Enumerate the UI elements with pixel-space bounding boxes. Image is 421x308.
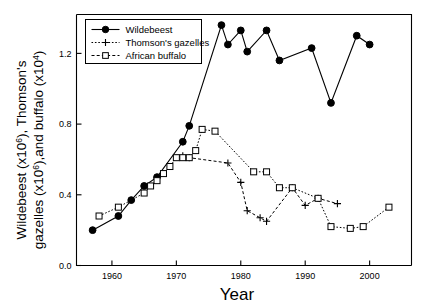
marker-open-square bbox=[160, 171, 166, 177]
marker-open-square bbox=[264, 169, 270, 175]
marker-open-square bbox=[154, 178, 160, 184]
marker-filled-circle bbox=[263, 27, 270, 34]
marker-open-square bbox=[199, 126, 205, 132]
marker-open-square bbox=[289, 185, 295, 191]
y-tick-label: 0.8 bbox=[59, 119, 72, 129]
legend-label: African buffalo bbox=[126, 50, 187, 61]
y-tick-label: 0.0 bbox=[59, 261, 72, 271]
x-tick-label: 1980 bbox=[231, 271, 251, 281]
marker-filled-circle bbox=[244, 48, 251, 55]
marker-filled-circle bbox=[224, 41, 231, 48]
figure-container: 196019701980199020000.00.40.81.2 Wildebe… bbox=[0, 0, 421, 308]
marker-filled-circle bbox=[186, 122, 193, 129]
marker-open-square bbox=[148, 183, 154, 189]
marker-open-square bbox=[212, 128, 218, 134]
marker-filled-circle bbox=[115, 213, 122, 220]
x-tick-label: 1990 bbox=[295, 271, 315, 281]
marker-open-square bbox=[347, 225, 353, 231]
svg-text:gazelles (x106),and buffalo (x: gazelles (x106),and buffalo (x104) bbox=[31, 51, 46, 249]
marker-open-square bbox=[193, 148, 199, 154]
marker-open-square bbox=[141, 190, 147, 196]
y-axis-title-line2-part-a: gazelles (x10 bbox=[31, 170, 46, 250]
line-chart: 196019701980199020000.00.40.81.2 Wildebe… bbox=[0, 0, 421, 308]
marker-filled-circle bbox=[218, 22, 225, 29]
marker-filled-circle bbox=[328, 99, 335, 106]
y-tick-label: 1.2 bbox=[59, 49, 72, 59]
marker-filled-circle bbox=[366, 41, 373, 48]
marker-filled-circle bbox=[179, 138, 186, 145]
x-tick-label: 1960 bbox=[102, 271, 122, 281]
x-tick-label: 2000 bbox=[360, 271, 380, 281]
x-tick-label: 1970 bbox=[166, 271, 186, 281]
x-axis-title: Year bbox=[220, 285, 255, 304]
marker-open-square bbox=[186, 155, 192, 161]
marker-open-square bbox=[315, 195, 321, 201]
y-tick-label: 0.4 bbox=[59, 190, 72, 200]
marker-open-square bbox=[386, 204, 392, 210]
marker-filled-circle bbox=[89, 227, 96, 234]
y-axis-title-line2-part-b: ),and buffalo (x10 bbox=[31, 60, 46, 165]
chart-legend[interactable]: WildebeestThomson's gazellesAfrican buff… bbox=[86, 20, 210, 64]
marker-filled-circle bbox=[237, 27, 244, 34]
legend-label: Thomson's gazelles bbox=[126, 37, 210, 48]
marker-filled-circle bbox=[128, 197, 135, 204]
marker-filled-circle bbox=[353, 32, 360, 39]
marker-filled-circle bbox=[141, 183, 148, 190]
marker-open-square bbox=[328, 224, 334, 230]
marker-open-square bbox=[115, 204, 121, 210]
y-axis-title-line1-part-a: Wildebeest (x10 bbox=[14, 143, 29, 240]
marker-open-square bbox=[103, 53, 109, 59]
y-axis-title-line1-part-b: ), Thomson's bbox=[14, 60, 29, 138]
marker-open-square bbox=[251, 169, 257, 175]
y-axis-title-line2-part-c: ) bbox=[31, 51, 46, 56]
marker-filled-circle bbox=[276, 57, 283, 64]
marker-open-square bbox=[167, 164, 173, 170]
marker-filled-circle bbox=[102, 26, 108, 32]
marker-open-square bbox=[96, 213, 102, 219]
marker-open-square bbox=[360, 224, 366, 230]
legend-label: Wildebeest bbox=[126, 24, 173, 35]
marker-filled-circle bbox=[308, 45, 315, 52]
svg-text:Wildebeest (x106), Thomson's: Wildebeest (x106), Thomson's bbox=[14, 60, 29, 239]
marker-open-square bbox=[173, 155, 179, 161]
marker-open-square bbox=[180, 155, 186, 161]
marker-open-square bbox=[276, 185, 282, 191]
